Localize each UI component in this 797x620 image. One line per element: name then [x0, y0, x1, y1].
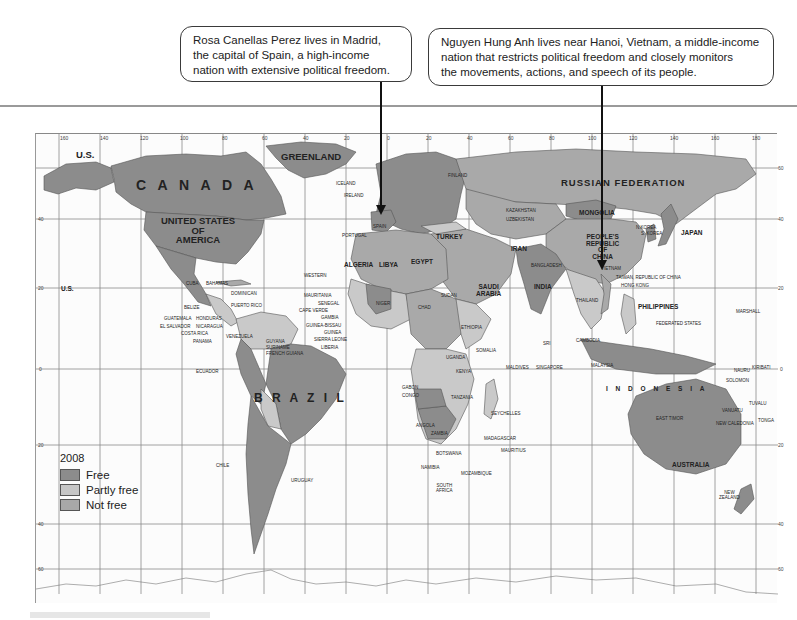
leader-line-hanoi	[601, 86, 603, 262]
label-chad: CHAD	[418, 306, 431, 311]
label-us-hawaii: U.S.	[61, 286, 74, 293]
label-s-korea: S. KOREA	[641, 232, 662, 237]
label-china: PEOPLE'S REPUBLIC OF CHINA	[586, 234, 619, 260]
label-french-guiana: FRENCH GUIANA	[266, 352, 303, 357]
label-micronesia: FEDERATED STATES	[656, 322, 701, 327]
tick-lon: 140	[670, 135, 678, 141]
label-australia: AUSTRALIA	[672, 462, 710, 469]
label-gambia: GAMBIA	[321, 316, 339, 321]
label-iran: IRAN	[511, 246, 527, 253]
label-namibia: NAMIBIA	[421, 466, 440, 471]
region-philippines	[621, 294, 636, 334]
label-saudi-arabia: SAUDI ARABIA	[476, 284, 501, 297]
label-seychelles: SEYCHELLES	[491, 412, 521, 417]
leader-line-madrid	[380, 82, 382, 207]
tick-lon: 180	[752, 135, 760, 141]
label-greenland: GREENLAND	[281, 152, 341, 162]
legend-label: Partly free	[86, 484, 138, 496]
label-sri-lanka: SRI	[543, 342, 551, 347]
label-russia: RUSSIAN FEDERATION	[561, 178, 685, 188]
label-belize: BELIZE	[184, 306, 200, 311]
callout-line: the capital of Spain, a high-income	[193, 48, 401, 63]
label-indonesia: I N D O N E S I A	[606, 386, 707, 393]
label-tuvalu: TUVALU	[749, 402, 766, 407]
label-philippines: PHILIPPINES	[638, 304, 678, 311]
label-kazakhstan: KAZAKHSTAN	[506, 209, 536, 214]
map-legend: 2008 Free Partly free Not free	[60, 452, 138, 512]
tick-lon: 60	[508, 135, 514, 141]
label-new-caledonia: NEW CALEDONIA	[716, 422, 754, 427]
tick-lat: 60	[778, 165, 784, 171]
tick-lat: 20	[778, 285, 784, 291]
label-egypt: EGYPT	[411, 259, 433, 266]
tick-lat: 40	[38, 521, 44, 527]
label-tanzania: TANZANIA	[451, 396, 473, 401]
label-suriname: SURINAME	[266, 346, 290, 351]
tick-lat: 20	[38, 285, 44, 291]
label-congo: CONGO	[402, 394, 419, 399]
callout-line: nation that restricts political freedom …	[441, 50, 763, 65]
label-us-alaska: U.S.	[76, 150, 94, 160]
legend-label: Not free	[86, 499, 127, 511]
tick-lon: 160	[711, 135, 719, 141]
map-graphic	[36, 134, 778, 604]
tick-lon: 160	[60, 135, 68, 141]
tick-lat: 40	[38, 216, 44, 222]
label-panama: PANAMA	[193, 340, 212, 345]
label-algeria: ALGERIA	[344, 262, 373, 269]
label-guatemala: GUATEMALA	[164, 317, 191, 322]
label-singapore: SINGAPORE	[536, 366, 563, 371]
label-kiribati: KIRIBATI	[752, 366, 770, 371]
label-uganda: UGANDA	[446, 356, 465, 361]
legend-swatch-not-free	[60, 499, 80, 511]
arrow-down-icon	[376, 205, 386, 215]
label-niger: NIGER	[376, 302, 390, 307]
label-mauritania: MAURITANIA	[304, 294, 331, 299]
region-botswana-namibia	[414, 389, 446, 409]
label-portugal: PORTUGAL	[342, 234, 367, 239]
tick-lon: 120	[629, 135, 637, 141]
legend-swatch-partly-free	[60, 484, 80, 496]
label-puerto-rico: PUERTO RICO	[231, 304, 262, 309]
tick-lon: 20	[344, 135, 350, 141]
legend-item-free: Free	[60, 467, 138, 482]
label-mauritius: MAURITIUS	[501, 449, 526, 454]
label-usa: UNITED STATES OF AMERICA	[161, 216, 235, 245]
label-guinea-bissau: GUINEA-BISSAU	[306, 324, 341, 329]
label-mozambique: MOZAMBIQUE	[461, 472, 492, 477]
label-hong-kong: HONG KONG	[621, 284, 649, 289]
label-maldives: MALDIVES	[506, 366, 529, 371]
label-botswana: BOTSWANA	[436, 452, 462, 457]
label-iceland: ICELAND	[336, 182, 356, 187]
tick-lon: 120	[140, 135, 148, 141]
label-ethiopia: ETHIOPIA	[461, 326, 482, 331]
tick-lon: 100	[180, 135, 188, 141]
legend-swatch-free	[60, 469, 80, 481]
tick-lat: 20	[778, 442, 784, 448]
label-uruguay: URUGUAY	[291, 479, 313, 484]
callout-hanoi: Nguyen Hung Anh lives near Hanoi, Vietna…	[428, 28, 774, 86]
label-sierra-leone: SIERRA LEONE	[314, 338, 347, 343]
tick-lat: 60	[38, 566, 44, 572]
label-libya: LIBYA	[379, 262, 398, 269]
tick-lat: 20	[38, 442, 44, 448]
figure-caption-fragment	[30, 612, 210, 618]
label-uzbekistan: UZBEKISTAN	[506, 218, 534, 223]
label-vanuatu: VANUATU	[722, 409, 743, 414]
legend-item-partly-free: Partly free	[60, 482, 138, 497]
label-bangladesh: BANGLADESH	[531, 264, 562, 269]
callout-line: nation with extensive political freedom.	[193, 63, 401, 78]
label-madagascar: MADAGASCAR	[484, 437, 516, 442]
label-gabon: GABON	[402, 386, 418, 391]
label-n-korea: N.KOREA	[636, 226, 656, 231]
label-ireland: IRELAND	[344, 194, 364, 199]
label-marshall: MARSHALL	[736, 310, 760, 315]
region-east-africa	[456, 299, 491, 349]
label-angola: ANGOLA	[416, 424, 435, 429]
label-cape-verde: CAPE VERDE	[299, 309, 328, 314]
label-japan: JAPAN	[681, 230, 703, 237]
tick-lat: 0	[780, 366, 783, 372]
label-zambia: ZAMBIA	[431, 432, 448, 437]
tick-lon: 100	[588, 135, 596, 141]
label-el-salvador: EL SALVADOR	[160, 325, 190, 330]
